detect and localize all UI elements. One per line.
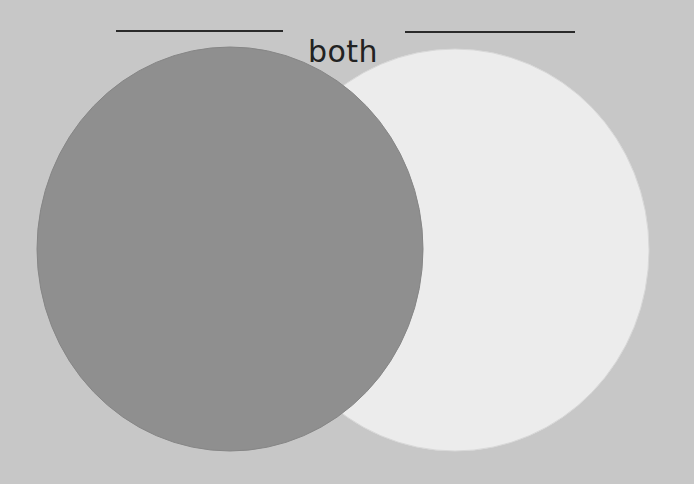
overlap-label: both: [300, 32, 386, 72]
left-set-title-blank[interactable]: [116, 30, 283, 32]
venn-diagram: both: [0, 0, 694, 484]
left-set-circle: [37, 47, 423, 451]
right-set-title-blank[interactable]: [405, 31, 575, 33]
venn-circles: [0, 0, 694, 484]
